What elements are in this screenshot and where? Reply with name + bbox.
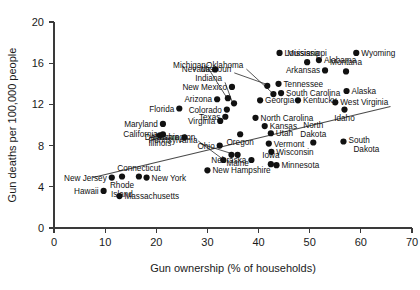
tick-labels-group: 010203040506070048121620 [32,16,418,248]
data-point [101,188,107,194]
point-label-arkansas: Arkansas [286,66,320,75]
data-point [341,106,347,112]
point-label-south: South [348,136,370,145]
data-point [264,83,270,89]
data-point [310,139,316,145]
y-tick-label-8: 8 [38,140,44,152]
point-label-connecticut: Connecticut [117,164,161,173]
x-tick-label-50: 50 [304,236,316,248]
data-point [217,143,223,149]
scatter-plot-figure: HawaiiMassachusettsNew JerseyRhodeIsland… [0,0,420,290]
point-label-alaska: Alaska [352,87,377,96]
y-tick-label-12: 12 [32,98,44,110]
data-point [224,106,230,112]
point-label-idaho: Idaho [334,114,355,123]
x-tick-label-10: 10 [99,236,111,248]
point-label-maine: Maine [226,159,249,168]
data-point [136,173,142,179]
point-label-new-york: New York [152,174,187,183]
data-point [222,114,228,120]
x-axis-title: Gun ownership (% of households) [150,262,316,274]
y-axis-title: Gun deaths per 100,000 people [6,48,18,203]
point-label-oregon: Oregon [227,138,255,147]
point-label-west-virginia: West Virginia [340,98,388,107]
point-label-mississippi: Mississippi [287,49,327,58]
data-point [268,130,274,136]
point-label-island: Island [111,190,133,199]
point-label-wisconsin: Wisconsin [276,148,314,157]
data-point [248,157,254,163]
x-tick-label-40: 40 [252,236,264,248]
plot-canvas: HawaiiMassachusettsNew JerseyRhodeIsland… [0,0,420,290]
data-point [322,67,328,73]
data-point [343,68,349,74]
point-label-florida: Florida [149,105,174,114]
data-point [278,90,284,96]
data-point [343,88,349,94]
point-label-north: North [303,121,323,130]
data-point [304,59,310,65]
y-tick-label-16: 16 [32,57,44,69]
data-point [273,162,279,168]
data-point [176,105,182,111]
data-point [229,84,235,90]
point-label-arizona: Arizona [184,95,212,104]
y-tick-label-20: 20 [32,16,44,28]
x-tick-label-70: 70 [406,236,418,248]
point-label-new-jersey: New Jersey [64,174,108,183]
y-tick-label-0: 0 [38,222,44,234]
data-point [266,140,272,146]
data-point [231,100,237,106]
point-label-kansas: Kansas [270,122,297,131]
x-tick-label-60: 60 [355,236,367,248]
data-point [252,115,258,121]
data-point [295,97,301,103]
data-point [160,121,166,127]
data-point [275,81,281,87]
point-label-rhode: Rhode [110,181,135,190]
point-label-dakota2: Dakota [353,145,379,154]
data-point [143,174,149,180]
data-point [353,50,359,56]
point-label-wyoming: Wyoming [361,49,395,58]
point-label-ohio: Ohio [197,142,215,151]
point-label-tennessee: Tennessee [284,80,324,89]
data-point [204,167,210,173]
data-point [119,173,125,179]
data-point [237,131,243,137]
data-point [340,138,346,144]
data-point [276,50,282,56]
point-label-hawaii: Hawaii [74,187,99,196]
x-tick-label-20: 20 [150,236,162,248]
point-label-south-carolina: South Carolina [286,89,341,98]
x-tick-label-30: 30 [201,236,213,248]
point-label-montana: Montana [330,58,362,67]
data-point [225,95,231,101]
point-label-maryland: Maryland [124,120,158,129]
point-label-colorado: Colorado [189,106,223,115]
point-label-minnesota: Minnesota [281,161,319,170]
point-label-vermont: Vermont [274,140,305,149]
data-point [262,123,268,129]
data-point [214,96,220,102]
point-label-washington: Washington [152,133,195,142]
point-label-new-mexico: New Mexico [182,83,227,92]
point-label-oklahoma: Oklahoma [206,61,244,70]
data-point [257,97,263,103]
y-tick-label-4: 4 [38,181,44,193]
point-label-dakota: Dakota [300,130,326,139]
x-tick-label-0: 0 [51,236,57,248]
